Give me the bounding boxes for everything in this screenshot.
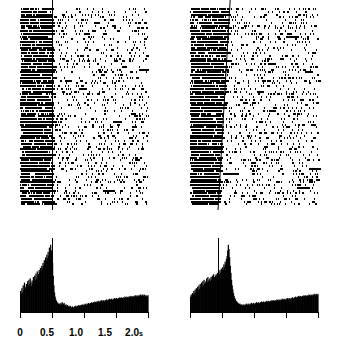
axis-unit-label: s — [139, 330, 143, 337]
right-psth-canvas — [180, 238, 338, 318]
right-panel — [180, 0, 338, 349]
tick-label-1-0: 1.0 — [69, 328, 83, 338]
left-psth-canvas — [0, 238, 169, 318]
left-psth-histogram — [0, 238, 169, 318]
left-raster-plot — [0, 0, 169, 210]
tick-label-0: 0 — [17, 328, 23, 338]
left-raster-canvas — [0, 0, 169, 210]
right-raster-canvas — [180, 0, 338, 210]
tick-label-2-0: 2.0s — [125, 328, 143, 338]
left-time-axis: 0 0.5 1.0 1.5 2.0s — [0, 318, 169, 348]
right-raster-plot — [180, 0, 338, 210]
tick-label-1-5: 1.5 — [98, 328, 112, 338]
left-panel: 0 0.5 1.0 1.5 2.0s — [0, 0, 169, 349]
right-psth-histogram — [180, 238, 338, 318]
tick-label-0-5: 0.5 — [40, 328, 54, 338]
raster-psth-figure: 0 0.5 1.0 1.5 2.0s — [0, 0, 338, 349]
right-time-axis — [180, 318, 338, 348]
